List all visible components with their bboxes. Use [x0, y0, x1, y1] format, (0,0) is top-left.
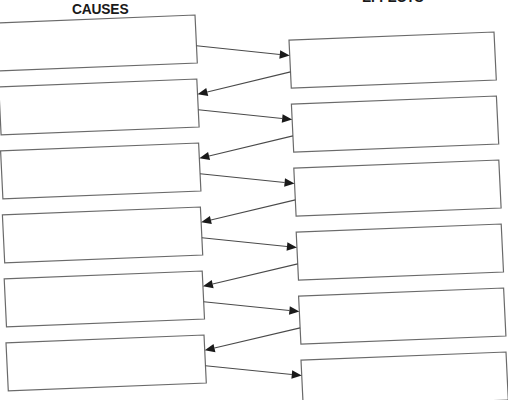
- arrow-effect-2-to-cause-3-shaft: [209, 136, 293, 156]
- arrow-effect-4-to-cause-5-shaft: [213, 264, 298, 284]
- arrow-cause-4-to-effect-4-head: [287, 242, 297, 250]
- cause-box-6-outline: [6, 335, 206, 391]
- effect-box-1-outline: [289, 32, 496, 88]
- arrow-effect-3-to-cause-4-head: [201, 216, 212, 224]
- arrow-cause-6-to-effect-6-shaft: [205, 366, 291, 375]
- arrow-cause-2-to-effect-2-head: [282, 114, 292, 122]
- cause-box-5-outline: [4, 271, 204, 327]
- effect-box-4[interactable]: [296, 224, 503, 280]
- effect-box-5[interactable]: [299, 288, 506, 344]
- arrow-effect-5-to-cause-6: [205, 328, 300, 352]
- effect-box-5-outline: [299, 288, 506, 344]
- effect-box-4-outline: [296, 224, 503, 280]
- cause-box-3-outline: [1, 143, 201, 199]
- arrow-cause-2-to-effect-2: [198, 110, 292, 123]
- arrow-effect-3-to-cause-4-shaft: [211, 200, 295, 220]
- cause-box-4[interactable]: [2, 207, 202, 263]
- arrow-cause-4-to-effect-4: [202, 238, 297, 251]
- arrow-effect-3-to-cause-4: [201, 200, 295, 224]
- effect-box-6[interactable]: [301, 352, 508, 400]
- arrow-cause-6-to-effect-6-head: [291, 370, 301, 378]
- cause-effect-worksheet: CAUSES EFFECTS: [0, 0, 508, 400]
- cause-box-2-outline: [0, 79, 199, 135]
- effect-box-1[interactable]: [289, 32, 496, 88]
- cause-effect-diagram: [0, 0, 508, 400]
- arrow-effect-2-to-cause-3: [199, 136, 293, 160]
- arrow-cause-2-to-effect-2-shaft: [198, 110, 282, 119]
- cause-box-1-outline: [0, 15, 197, 71]
- cause-box-6[interactable]: [6, 335, 206, 391]
- cause-box-4-outline: [2, 207, 202, 263]
- arrow-cause-1-to-effect-1-shaft: [196, 46, 279, 55]
- cause-box-3[interactable]: [1, 143, 201, 199]
- effect-box-3-outline: [294, 160, 501, 216]
- arrow-cause-1-to-effect-1-head: [279, 50, 289, 58]
- arrow-effect-4-to-cause-5: [203, 264, 298, 288]
- arrow-effect-2-to-cause-3-head: [199, 152, 210, 160]
- arrows-layer: [196, 46, 301, 379]
- effect-box-2[interactable]: [291, 96, 498, 152]
- effect-box-6-outline: [301, 352, 508, 400]
- arrow-effect-1-to-cause-2-shaft: [207, 72, 290, 92]
- effect-box-3[interactable]: [294, 160, 501, 216]
- boxes-layer: [0, 15, 508, 400]
- arrow-cause-3-to-effect-3: [200, 174, 294, 187]
- cause-box-2[interactable]: [0, 79, 199, 135]
- arrow-effect-4-to-cause-5-head: [203, 280, 214, 288]
- arrow-cause-1-to-effect-1: [196, 46, 289, 59]
- arrow-cause-5-to-effect-5-head: [289, 306, 299, 314]
- arrow-cause-5-to-effect-5: [204, 302, 300, 315]
- arrow-effect-1-to-cause-2: [198, 72, 291, 96]
- arrow-cause-3-to-effect-3-shaft: [200, 174, 285, 183]
- arrow-cause-6-to-effect-6: [205, 366, 301, 379]
- arrow-effect-1-to-cause-2-head: [198, 88, 209, 96]
- effect-box-2-outline: [291, 96, 498, 152]
- arrow-cause-5-to-effect-5-shaft: [204, 302, 290, 311]
- cause-box-1[interactable]: [0, 15, 197, 71]
- cause-box-5[interactable]: [4, 271, 204, 327]
- arrow-cause-4-to-effect-4-shaft: [202, 238, 287, 247]
- arrow-cause-3-to-effect-3-head: [284, 178, 294, 186]
- arrow-effect-5-to-cause-6-shaft: [214, 328, 300, 348]
- arrow-effect-5-to-cause-6-head: [205, 344, 216, 352]
